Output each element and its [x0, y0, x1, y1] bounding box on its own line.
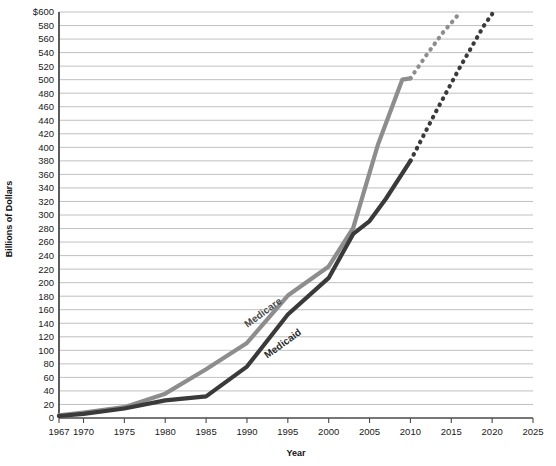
y-tick-label: 260: [38, 236, 54, 247]
y-tick-label: 400: [38, 142, 54, 153]
y-tick-label: 460: [38, 101, 54, 112]
chart-background: [0, 0, 556, 466]
x-tick-label: 1967: [48, 426, 69, 437]
x-tick-label: 2005: [359, 426, 380, 437]
y-tick-label: 120: [38, 331, 54, 342]
medicare-medicaid-spending-chart: 0204060801001201401601802002202402602803…: [0, 0, 556, 466]
y-tick-label: 420: [38, 128, 54, 139]
y-tick-label: 160: [38, 304, 54, 315]
y-tick-label: 300: [38, 209, 54, 220]
x-tick-label: 1980: [155, 426, 176, 437]
x-tick-label: 2010: [400, 426, 421, 437]
x-tick-label: 1990: [236, 426, 257, 437]
y-tick-label: 500: [38, 74, 54, 85]
y-tick-label: 380: [38, 155, 54, 166]
y-tick-label: 100: [38, 345, 54, 356]
y-tick-label: 200: [38, 277, 54, 288]
y-tick-label: 80: [43, 358, 54, 369]
x-tick-label: 2020: [482, 426, 503, 437]
y-tick-label: 240: [38, 250, 54, 261]
y-axis-title: Billions of Dollars: [4, 181, 14, 258]
y-tick-label: 180: [38, 291, 54, 302]
y-tick-label: 520: [38, 61, 54, 72]
y-tick-label: 40: [43, 385, 54, 396]
x-tick-label: 2025: [522, 426, 543, 437]
y-tick-label: 220: [38, 264, 54, 275]
x-tick-label: 1975: [114, 426, 135, 437]
y-tick-label: 20: [43, 399, 54, 410]
y-tick-label: 0: [49, 412, 54, 423]
x-tick-label: 2015: [441, 426, 462, 437]
x-tick-label: 1995: [277, 426, 298, 437]
y-tick-label: 480: [38, 88, 54, 99]
y-tick-label: 280: [38, 223, 54, 234]
y-tick-label: 540: [38, 47, 54, 58]
x-tick-label: 2000: [318, 426, 339, 437]
y-tick-label: 140: [38, 318, 54, 329]
x-axis-title: Year: [286, 448, 306, 458]
y-tick-label: 440: [38, 115, 54, 126]
y-tick-label: 580: [38, 20, 54, 31]
y-tick-label: 320: [38, 196, 54, 207]
x-tick-label: 1985: [196, 426, 217, 437]
y-tick-label: 360: [38, 169, 54, 180]
x-tick-label: 1970: [73, 426, 94, 437]
y-tick-label: 60: [43, 372, 54, 383]
y-tick-label: $600: [33, 6, 54, 17]
chart-canvas: 0204060801001201401601802002202402602803…: [0, 0, 556, 466]
y-tick-label: 340: [38, 182, 54, 193]
y-tick-label: 560: [38, 33, 54, 44]
